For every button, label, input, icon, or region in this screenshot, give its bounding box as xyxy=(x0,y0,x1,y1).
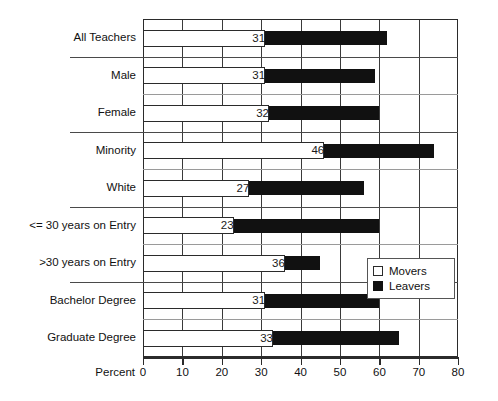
gridline-70 xyxy=(419,20,420,356)
bar-leavers[interactable] xyxy=(265,31,387,45)
bar-value-label: 31 xyxy=(205,30,268,47)
category-label-female: Female xyxy=(0,106,136,118)
bar-value-label: 31 xyxy=(205,292,268,309)
x-tick-60 xyxy=(379,357,380,365)
category-label-gt-30-years-on-entry: >30 years on Entry xyxy=(0,256,136,268)
bar-leavers[interactable] xyxy=(269,106,379,120)
group-separator-1 xyxy=(70,57,458,58)
row-separator xyxy=(143,244,458,245)
bar-leavers[interactable] xyxy=(273,331,399,345)
x-tick-label-40: 40 xyxy=(286,366,316,378)
x-tick-50 xyxy=(340,357,341,365)
bar-value-label: 32 xyxy=(209,105,272,122)
x-tick-label-80: 80 xyxy=(443,366,473,378)
bar-value-label: 31 xyxy=(205,67,268,84)
bar-leavers[interactable] xyxy=(285,256,321,270)
group-separator-2 xyxy=(70,132,458,133)
x-tick-label-30: 30 xyxy=(246,366,276,378)
bar-leavers[interactable] xyxy=(265,69,375,83)
bar-leavers[interactable] xyxy=(249,181,363,195)
bar-value-label: 46 xyxy=(264,142,327,159)
bar-value-label: 23 xyxy=(174,217,237,234)
bar-value-label: 27 xyxy=(189,180,252,197)
row-separator xyxy=(143,169,458,170)
row-separator xyxy=(143,319,458,320)
category-label-all-teachers: All Teachers xyxy=(0,31,136,43)
bar-value-label: 33 xyxy=(213,330,276,347)
category-label-male: Male xyxy=(0,69,136,81)
category-label-graduate-degree: Graduate Degree xyxy=(0,331,136,343)
gridline-60 xyxy=(379,20,380,356)
x-tick-70 xyxy=(419,357,420,365)
x-tick-20 xyxy=(222,357,223,365)
legend-label-movers: Movers xyxy=(389,265,427,277)
x-tick-0 xyxy=(143,357,144,365)
chart-legend: Movers Leavers xyxy=(367,258,455,299)
filled-square-icon xyxy=(373,281,383,291)
x-tick-30 xyxy=(261,357,262,365)
stacked-bar-chart: All Teachers Male Female Minority White … xyxy=(0,0,498,401)
bar-leavers[interactable] xyxy=(265,294,379,308)
category-label-minority: Minority xyxy=(0,144,136,156)
group-separator-3 xyxy=(70,207,458,208)
x-tick-10 xyxy=(182,357,183,365)
x-tick-40 xyxy=(301,357,302,365)
category-label-white: White xyxy=(0,181,136,193)
x-tick-label-20: 20 xyxy=(207,366,237,378)
category-label-le-30-years-on-entry: <= 30 years on Entry xyxy=(0,219,136,231)
category-label-bachelor-degree: Bachelor Degree xyxy=(0,294,136,306)
legend-label-leavers: Leavers xyxy=(389,280,430,292)
x-axis-title: Percent xyxy=(63,366,135,378)
bar-value-label: 36 xyxy=(225,255,288,272)
legend-item-leavers[interactable]: Leavers xyxy=(373,278,449,293)
row-separator xyxy=(143,94,458,95)
x-tick-80 xyxy=(458,357,459,365)
open-square-icon xyxy=(373,266,383,276)
x-tick-label-70: 70 xyxy=(404,366,434,378)
bar-leavers[interactable] xyxy=(324,144,434,158)
bar-leavers[interactable] xyxy=(234,219,380,233)
legend-item-movers[interactable]: Movers xyxy=(373,263,449,278)
x-tick-label-60: 60 xyxy=(364,366,394,378)
x-tick-label-10: 10 xyxy=(167,366,197,378)
x-tick-label-50: 50 xyxy=(325,366,355,378)
